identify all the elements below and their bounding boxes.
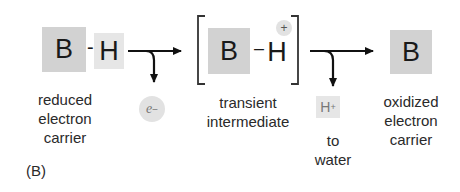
- oxidized-B-label: B: [402, 37, 420, 68]
- reduced-B-label: B: [55, 34, 73, 65]
- proton-charge: +: [330, 102, 335, 112]
- label-line: water: [306, 150, 360, 169]
- electron-circle: e−: [139, 96, 165, 122]
- proton-box: H+: [316, 96, 340, 118]
- reduced-carrier-label: reduced electron carrier: [24, 90, 106, 147]
- intermediate-charge: +: [280, 21, 287, 35]
- label-line: carrier: [364, 130, 458, 149]
- intermediate-bond: –: [254, 38, 264, 59]
- intermediate-B-label: B: [220, 36, 238, 67]
- positive-charge-circle: +: [276, 20, 292, 36]
- label-line: transient: [190, 93, 306, 112]
- label-line: electron: [24, 109, 106, 128]
- electron-charge: −: [152, 104, 158, 115]
- to-water-label: to water: [306, 131, 360, 169]
- intermediate-label: transient intermediate: [190, 93, 306, 131]
- reaction-arrow-1: [128, 51, 181, 82]
- intermediate-H-label: H: [267, 37, 287, 68]
- reduced-H-label: H: [99, 36, 119, 67]
- reaction-arrow-2: [310, 51, 373, 86]
- label-line: reduced: [24, 90, 106, 109]
- intermediate-B-box: B: [208, 28, 250, 74]
- intermediate-H: H: [264, 33, 290, 71]
- label-line: carrier: [24, 128, 106, 147]
- panel-label: (B): [26, 162, 46, 179]
- reduced-H-box: H: [94, 33, 124, 69]
- oxidized-B-box: B: [390, 30, 432, 74]
- reduced-B-box: B: [42, 27, 86, 72]
- label-line: oxidized: [364, 92, 458, 111]
- reduced-bond: -: [87, 36, 94, 59]
- label-line: to: [306, 131, 360, 150]
- label-line: electron: [364, 111, 458, 130]
- proton-symbol: H: [320, 99, 330, 115]
- label-line: intermediate: [190, 112, 306, 131]
- oxidized-carrier-label: oxidized electron carrier: [364, 92, 458, 149]
